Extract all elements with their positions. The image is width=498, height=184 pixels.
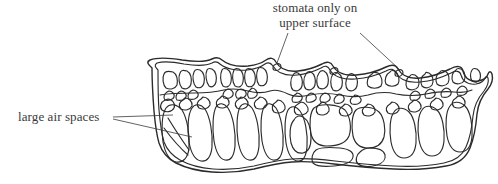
air-space-cell-4: [237, 104, 259, 160]
air-space-large-8: [290, 116, 311, 153]
epidermis-cells-center-right: [291, 70, 399, 104]
air-space-cell-5: [261, 104, 283, 160]
cell-inner-diagonal-2: [164, 128, 188, 155]
stomata-label-line1: stomata only on: [255, 1, 375, 16]
air-space-large-5: [390, 108, 416, 158]
epidermis-cells-center-left: [221, 67, 268, 98]
air-space-large-2: [352, 107, 385, 148]
air-space-large-6: [418, 106, 444, 156]
stomata-label-line2: upper surface: [255, 16, 375, 31]
leader-line-air-spaces-lower: [113, 119, 192, 137]
air-spaces-label: large air spaces: [18, 110, 100, 125]
mesophyll-small-cells: [161, 96, 466, 116]
air-space-cell-3: [213, 104, 235, 160]
epidermis-cells-left: [163, 68, 216, 100]
leaf-outline-group: [148, 58, 493, 173]
leader-line-stomata-left: [277, 33, 288, 63]
leader-line-stomata-right: [360, 33, 399, 69]
leader-lines-group: [113, 33, 399, 137]
leader-line-air-spaces-upper: [113, 115, 173, 117]
air-space-large-7: [446, 102, 472, 152]
stomata-openings: [273, 64, 403, 77]
leaf-cross-section-diagram: [0, 0, 498, 184]
palisade-columnar-cells: [162, 104, 307, 162]
diagram-page: stomata only on upper surface large air …: [0, 0, 498, 184]
large-air-space-cells-right: [290, 102, 472, 166]
stomata-label: stomata only on upper surface: [255, 1, 375, 30]
air-space-cell-2: [188, 105, 212, 161]
